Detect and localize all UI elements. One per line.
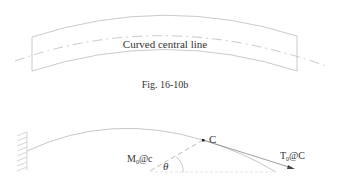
moment-label: M0@c (127, 153, 153, 165)
radial-dashed-line (148, 140, 203, 172)
tangent-label: T0@C (280, 150, 305, 162)
figure-caption: Fig. 16-10b (142, 79, 189, 90)
central-line-label: Curved central line (123, 38, 207, 50)
tangent-line (203, 140, 292, 168)
beam-lower-edge (32, 50, 297, 72)
point-c-marker (202, 139, 205, 142)
deflected-curve (27, 128, 276, 172)
diagram-canvas: Curved central line Fig. 16-10b C M0@c T… (0, 0, 338, 193)
point-c-label: C (209, 133, 216, 145)
theta-arc (176, 157, 183, 172)
fixed-support (17, 132, 27, 171)
tangent-arrow-icon (287, 165, 295, 169)
beam-upper-edge (32, 15, 297, 37)
angle-theta-label: θ (163, 160, 169, 172)
